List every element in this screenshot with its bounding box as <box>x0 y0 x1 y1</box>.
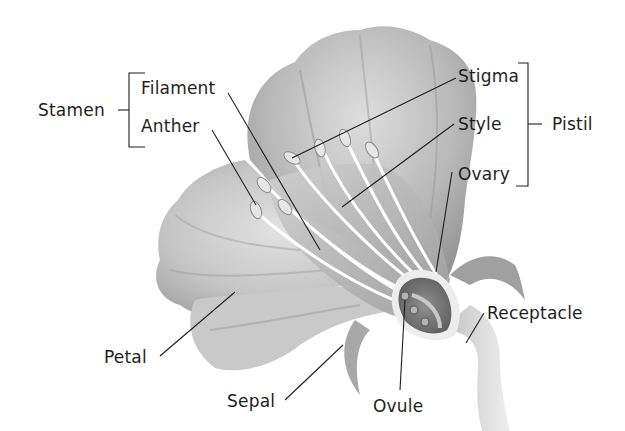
flower-diagram: Stamen Filament Anther Stigma Style Ovar… <box>0 0 625 431</box>
label-style: Style <box>458 114 502 134</box>
label-petal: Petal <box>104 347 147 367</box>
label-stigma: Stigma <box>458 66 519 86</box>
label-receptacle: Receptacle <box>487 303 583 323</box>
label-stamen: Stamen <box>38 100 105 120</box>
label-anther: Anther <box>141 116 200 136</box>
flower-illustration <box>0 0 625 431</box>
label-filament: Filament <box>141 78 215 98</box>
label-sepal: Sepal <box>227 391 275 411</box>
label-ovary: Ovary <box>458 164 510 184</box>
label-pistil: Pistil <box>552 114 593 134</box>
label-ovule: Ovule <box>373 396 423 416</box>
